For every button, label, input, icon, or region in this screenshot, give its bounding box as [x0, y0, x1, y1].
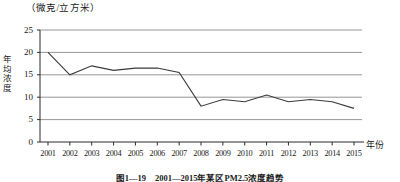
- y-tick-label: 0: [13, 138, 33, 147]
- y-tick-label: 15: [13, 70, 33, 79]
- chart-figure: （微克/立方米） 年均浓度 年份 0510152025 200120022003…: [0, 0, 400, 182]
- y-tick-label: 25: [13, 26, 33, 35]
- data-series-line: [48, 52, 354, 108]
- figure-caption: 图1—19 2001—2015年某区PM2.5浓度趋势: [0, 173, 400, 182]
- y-tick-label: 20: [13, 48, 33, 57]
- y-tick-label: 10: [13, 93, 33, 102]
- x-tick-label: 2015: [341, 149, 367, 158]
- y-tick-label: 5: [13, 115, 33, 124]
